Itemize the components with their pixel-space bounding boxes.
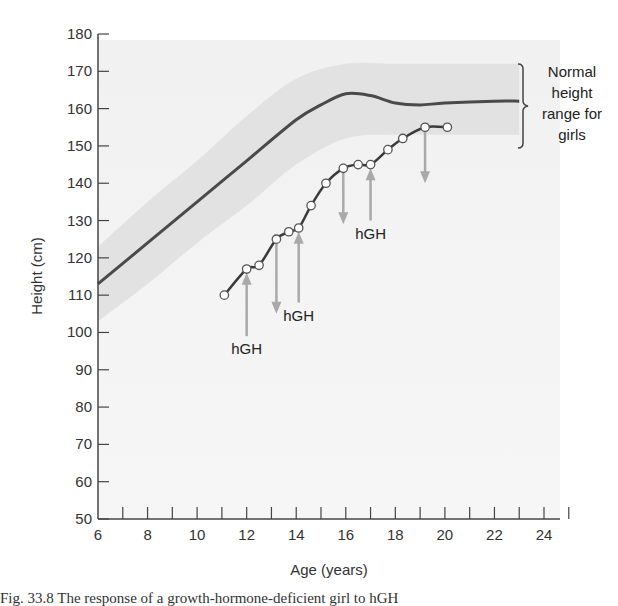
data-point <box>399 134 407 142</box>
hgh-label: hGH <box>283 307 314 324</box>
x-tick-label: 24 <box>536 526 553 543</box>
data-point <box>272 235 280 243</box>
y-tick-label: 150 <box>67 137 92 154</box>
figure-caption: Fig. 33.8 The response of a growth-hormo… <box>0 590 398 606</box>
y-tick-label: 120 <box>67 249 92 266</box>
y-tick-label: 130 <box>67 212 92 229</box>
x-tick-label: 18 <box>387 526 404 543</box>
height-vs-age-chart: hGHhGHhGH 506070809010011012013014015016… <box>0 0 618 590</box>
annotation-line-3: range for <box>542 105 602 122</box>
y-tick-label: 180 <box>67 25 92 42</box>
y-axis-title: Height (cm) <box>28 237 45 315</box>
x-tick-label: 22 <box>486 526 503 543</box>
y-tick-label: 70 <box>75 435 92 452</box>
y-tick-label: 90 <box>75 361 92 378</box>
annotation-line-2: height <box>552 84 594 101</box>
data-point <box>295 224 303 232</box>
data-point <box>421 123 429 131</box>
y-tick-label: 160 <box>67 100 92 117</box>
data-point <box>322 179 330 187</box>
data-point <box>366 160 374 168</box>
x-axis-title: Age (years) <box>290 561 368 578</box>
annotation-line-1: Normal <box>548 63 596 80</box>
data-point <box>285 228 293 236</box>
data-point <box>354 160 362 168</box>
y-tick-label: 170 <box>67 62 92 79</box>
hgh-label: hGH <box>231 340 262 357</box>
y-tick-label: 50 <box>75 510 92 527</box>
y-tick-label: 60 <box>75 473 92 490</box>
y-tick-label: 110 <box>68 286 92 303</box>
data-point <box>339 164 347 172</box>
y-tick-label: 140 <box>67 174 92 191</box>
annotation-line-4: girls <box>558 126 586 143</box>
data-point <box>255 261 263 269</box>
x-tick-label: 16 <box>337 526 354 543</box>
y-tick-label: 100 <box>67 323 92 340</box>
x-tick-label: 14 <box>288 526 305 543</box>
data-point <box>220 291 228 299</box>
x-tick-label: 12 <box>238 526 255 543</box>
data-point <box>443 123 451 131</box>
data-point <box>242 265 250 273</box>
hgh-label: hGH <box>355 225 386 242</box>
x-tick-label: 20 <box>437 526 454 543</box>
y-tick-label: 80 <box>75 398 92 415</box>
x-tick-label: 6 <box>94 526 102 543</box>
data-point <box>384 145 392 153</box>
x-tick-label: 10 <box>189 526 206 543</box>
data-point <box>307 201 315 209</box>
x-tick-label: 8 <box>143 526 151 543</box>
